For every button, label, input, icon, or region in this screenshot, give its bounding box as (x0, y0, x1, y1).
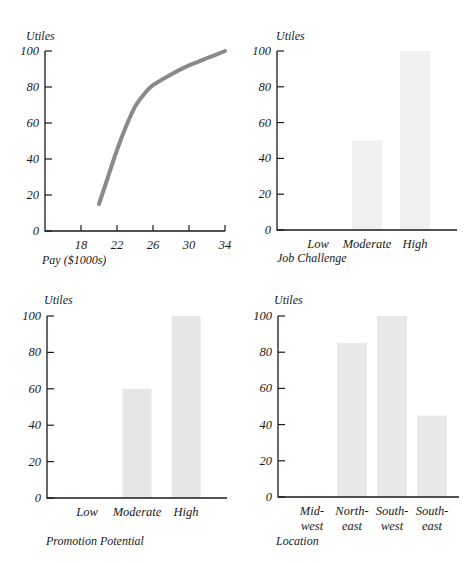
bar (400, 51, 430, 230)
y-tick-label: 20 (260, 454, 273, 468)
category-label: South- (376, 504, 409, 518)
category-labels: LowModerateHigh (306, 237, 427, 251)
y-tick-label: 20 (259, 187, 272, 201)
category-label: east (422, 519, 443, 533)
bar (417, 416, 447, 497)
y-tick-label: 40 (260, 418, 273, 432)
y-tick-label: 0 (266, 490, 273, 504)
y-tick-label: 80 (259, 80, 272, 94)
y-tick-label: 60 (259, 116, 272, 130)
y-tick-label: 100 (20, 44, 40, 58)
y-tick-label: 100 (252, 44, 272, 58)
y-axis-ticks: 020406080100 (252, 44, 284, 237)
category-label: west (381, 519, 404, 533)
utility-charts-figure: Utiles 020406080100 1822263034 Pay ($100… (0, 0, 474, 563)
x-axis-label: Location (275, 534, 319, 548)
bars (337, 316, 447, 497)
x-axis-ticks: 1822263034 (75, 225, 232, 252)
y-axis-label: Utiles (274, 293, 303, 307)
bar (337, 343, 367, 497)
y-tick-label: 20 (29, 455, 42, 469)
y-tick-label: 0 (265, 223, 272, 237)
y-tick-label: 80 (27, 80, 40, 94)
y-tick-label: 40 (259, 151, 272, 165)
category-label: North- (334, 504, 368, 518)
category-labels: Mid-westNorth-eastSouth-westSouth-east (299, 504, 448, 533)
x-axis-label: Pay ($1000s) (41, 253, 106, 267)
x-axis-label: Job Challenge (277, 251, 347, 265)
utility-curve (99, 51, 225, 204)
y-axis-label: Utiles (26, 29, 55, 43)
y-axis-ticks: 020406080100 (22, 309, 54, 505)
location-chart: Utiles 020406080100 Mid-westNorth-eastSo… (253, 293, 459, 548)
bars (123, 316, 201, 498)
y-tick-label: 40 (27, 152, 40, 166)
category-label: Low (75, 505, 98, 519)
x-axis-label: Promotion Potential (45, 534, 145, 548)
y-tick-label: 60 (27, 116, 40, 130)
x-tick-label: 34 (218, 238, 232, 252)
axes (45, 51, 225, 231)
bar (377, 316, 407, 497)
pay-utility-chart: Utiles 020406080100 1822263034 Pay ($100… (20, 29, 231, 267)
y-tick-label: 80 (260, 345, 273, 359)
bar (172, 316, 201, 498)
x-tick-label: 30 (182, 238, 196, 252)
category-labels: LowModerateHigh (75, 505, 198, 519)
y-tick-label: 0 (33, 224, 40, 238)
x-tick-label: 22 (111, 238, 124, 252)
category-label: High (173, 505, 199, 519)
bars (352, 51, 430, 230)
category-label: east (342, 519, 363, 533)
y-tick-label: 80 (29, 345, 42, 359)
category-label: High (402, 237, 428, 251)
y-tick-label: 60 (260, 381, 273, 395)
y-axis-ticks: 020406080100 (20, 44, 52, 238)
promotion-potential-chart: Utiles 020406080100 LowModerateHigh Prom… (22, 293, 227, 548)
y-tick-label: 0 (35, 491, 42, 505)
y-axis-label: Utiles (276, 29, 305, 43)
category-label: west (301, 519, 324, 533)
x-tick-label: 18 (75, 238, 88, 252)
y-tick-label: 100 (253, 309, 273, 323)
y-axis-ticks: 020406080100 (253, 309, 285, 504)
bar (123, 389, 152, 498)
category-label: Low (306, 237, 329, 251)
category-label: Mid- (299, 504, 324, 518)
y-tick-label: 60 (29, 382, 42, 396)
y-axis-label: Utiles (44, 293, 73, 307)
category-label: Moderate (112, 505, 162, 519)
y-tick-label: 100 (22, 309, 42, 323)
y-tick-label: 40 (29, 418, 42, 432)
category-label: Moderate (342, 237, 392, 251)
job-challenge-chart: Utiles 020406080100 LowModerateHigh Job … (252, 29, 457, 265)
y-tick-label: 20 (27, 188, 40, 202)
x-tick-label: 26 (147, 238, 160, 252)
bar (352, 141, 382, 231)
category-label: South- (416, 504, 449, 518)
